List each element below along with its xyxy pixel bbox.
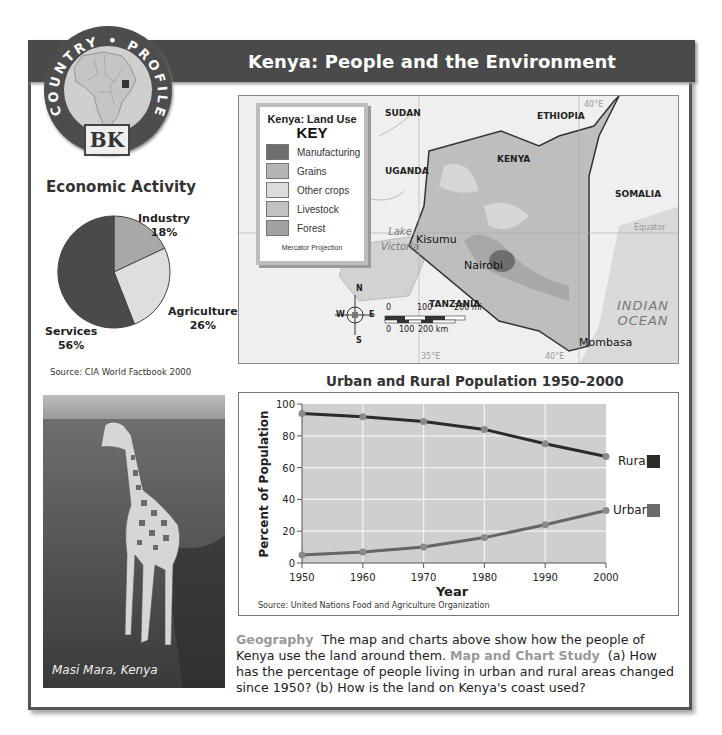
compass-s: S [356, 336, 362, 345]
legend-urban-label: Urban [613, 503, 649, 517]
key-heading: KEY [260, 125, 364, 141]
scale-mi-200: 200 mi [454, 303, 482, 312]
geography-label: Geography [236, 632, 313, 647]
label-lake-victoria: Lake Victoria [380, 224, 420, 254]
pie-label-industry: Industry18% [138, 212, 190, 240]
svg-text:1980: 1980 [472, 572, 497, 583]
key-item-other-crops: Other crops [266, 182, 364, 198]
key-item-livestock: Livestock [266, 201, 364, 217]
pie-label-agriculture: Agriculture26% [168, 305, 238, 333]
scale-mi-100: 100 [417, 303, 432, 312]
scale-km-100: 100 [399, 325, 414, 334]
city-kisumu: Kisumu [416, 233, 457, 246]
study-caption: Geography The map and charts above show … [236, 632, 682, 696]
svg-text:80: 80 [282, 431, 295, 442]
label-indian-ocean: INDIANOCEAN [617, 298, 669, 328]
legend-rural-swatch [647, 455, 660, 468]
scale-km-0: 0 [386, 325, 391, 334]
svg-text:1950: 1950 [289, 572, 314, 583]
label-35e: 35°E [421, 352, 440, 361]
pie-source: Source: CIA World Factbook 2000 [50, 367, 191, 377]
map-chart-study-label: Map and Chart Study [450, 648, 600, 663]
chart-source: Source: United Nations Food and Agricult… [258, 601, 489, 610]
page-title: Kenya: People and the Environment [248, 51, 616, 72]
giraffe-photo [43, 395, 225, 688]
svg-text:1960: 1960 [350, 572, 375, 583]
economic-activity-title: Economic Activity [46, 178, 196, 196]
scale-mi-0: 0 [386, 303, 391, 312]
label-ethiopia: ETHIOPIA [537, 111, 585, 121]
svg-text:60: 60 [282, 463, 295, 474]
compass-e: E [369, 310, 374, 319]
compass-n: N [356, 284, 363, 293]
label-uganda: UGANDA [385, 166, 429, 176]
legend-urban-swatch [647, 504, 660, 517]
scale-km-200: 200 km [418, 325, 448, 334]
legend-rural-label: Rural [618, 454, 649, 468]
map-key: Kenya: Land Use KEY Manufacturing Grains… [256, 103, 368, 265]
key-item-manufacturing: Manufacturing [266, 144, 364, 160]
compass-w: W [336, 310, 345, 319]
svg-text:COUNTRY • PROFILE: COUNTRY • PROFILE [46, 33, 170, 121]
chart-title: Urban and Rural Population 1950–2000 [326, 373, 624, 389]
label-somalia: SOMALIA [615, 189, 661, 199]
svg-text:20: 20 [282, 526, 295, 537]
svg-text:Year: Year [435, 584, 469, 599]
city-nairobi: Nairobi [464, 259, 503, 272]
svg-text:Percent of Population: Percent of Population [257, 410, 271, 557]
key-item-forest: Forest [266, 220, 364, 236]
svg-text:40: 40 [282, 494, 295, 505]
scale-bar [385, 316, 465, 323]
label-kenya: KENYA [497, 154, 530, 164]
svg-text:2000: 2000 [593, 572, 618, 583]
svg-text:1990: 1990 [532, 572, 557, 583]
photo-caption: Masi Mara, Kenya [52, 663, 158, 677]
label-40e-bottom: 40°E [545, 352, 564, 361]
map-projection-note: Mercator Projection [260, 244, 364, 251]
svg-text:100: 100 [276, 399, 295, 410]
label-40e-top: 40°E [584, 100, 603, 109]
svg-text:0: 0 [289, 558, 295, 569]
svg-text:1970: 1970 [411, 572, 436, 583]
city-mombasa: Mombasa [579, 336, 632, 349]
label-equator: Equator [634, 223, 665, 232]
book-logo-icon: BK [84, 124, 130, 156]
key-item-grains: Grains [266, 163, 364, 179]
label-sudan: SUDAN [385, 108, 421, 118]
pie-label-services: Services56% [45, 325, 97, 353]
